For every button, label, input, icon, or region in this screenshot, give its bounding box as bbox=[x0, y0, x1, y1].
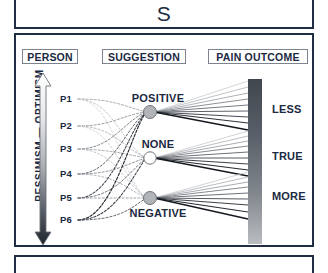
suggestion-node-none bbox=[144, 152, 156, 164]
person-label-p5: P5 bbox=[60, 192, 72, 203]
suggestion-nodes bbox=[144, 106, 157, 205]
person-label-p2: P2 bbox=[60, 120, 72, 131]
column-header-pain-outcome: PAIN OUTCOME bbox=[208, 49, 308, 64]
optimism-gradient-arrow-icon bbox=[34, 73, 52, 245]
person-label-p4: P4 bbox=[60, 168, 72, 179]
suggestion-node-positive bbox=[144, 106, 157, 119]
column-header-suggestion: SUGGESTION bbox=[102, 49, 186, 64]
person-label-p3: P3 bbox=[60, 143, 72, 154]
diagram-panel: PERSON SUGGESTION PAIN OUTCOME PESSIMISM… bbox=[14, 33, 314, 247]
title-panel: S bbox=[14, 0, 314, 29]
pain-outcome-gradient-bar bbox=[248, 79, 262, 244]
person-label-p1: P1 bbox=[60, 93, 72, 104]
suggestion-label-negative: NEGATIVE bbox=[129, 207, 186, 219]
outcome-label-less: LESS bbox=[272, 103, 302, 115]
column-header-person: PERSON bbox=[22, 49, 78, 64]
suggestion-label-positive: POSITIVE bbox=[132, 92, 184, 104]
outcome-label-more: MORE bbox=[272, 190, 306, 202]
suggestion-label-none: NONE bbox=[142, 138, 175, 150]
bottom-panel bbox=[14, 255, 314, 273]
person-label-p6: P6 bbox=[60, 214, 72, 225]
page-title: S bbox=[157, 3, 172, 24]
suggestion-node-negative bbox=[144, 192, 157, 205]
outcome-label-true: TRUE bbox=[272, 150, 303, 162]
person-suggestion-edges bbox=[78, 99, 146, 220]
